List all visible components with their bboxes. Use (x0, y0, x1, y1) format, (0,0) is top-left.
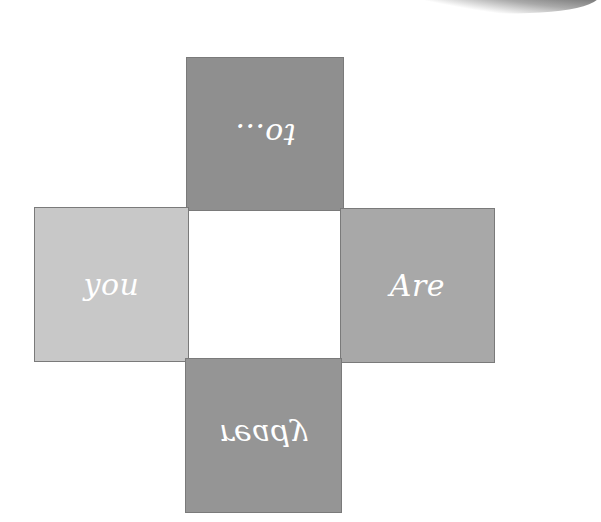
square-bottom-label: ready (219, 418, 308, 453)
square-top: to... (186, 57, 344, 211)
square-right: Are (340, 208, 495, 363)
page-curl-shadow (339, 0, 601, 21)
square-top-label: to... (235, 117, 296, 152)
square-bottom: ready (185, 358, 342, 513)
square-left: you (34, 207, 189, 362)
center-empty-square (189, 211, 340, 358)
square-right-label: Are (390, 268, 445, 303)
square-left-label: you (84, 267, 140, 302)
